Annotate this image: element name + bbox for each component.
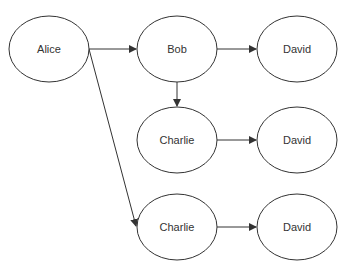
node-alice[interactable]: Alice [9, 16, 89, 82]
node-label: Alice [37, 43, 61, 55]
node-charlie1[interactable]: Charlie [137, 107, 217, 173]
node-david3[interactable]: David [257, 194, 337, 260]
arrow-line [89, 49, 136, 226]
node-label: Charlie [160, 221, 195, 233]
node-label: David [283, 43, 311, 55]
node-david1[interactable]: David [257, 16, 337, 82]
node-label: Bob [167, 43, 187, 55]
node-bob[interactable]: Bob [137, 16, 217, 82]
nodes-layer: AliceBobDavidCharlieDavidCharlieDavid [9, 16, 337, 260]
node-david2[interactable]: David [257, 107, 337, 173]
node-label: Charlie [160, 134, 195, 146]
node-label: David [283, 134, 311, 146]
node-charlie2[interactable]: Charlie [137, 194, 217, 260]
flow-diagram: AliceBobDavidCharlieDavidCharlieDavid [0, 0, 354, 274]
edge-alice-to-charlie2 [89, 49, 136, 226]
node-label: David [283, 221, 311, 233]
